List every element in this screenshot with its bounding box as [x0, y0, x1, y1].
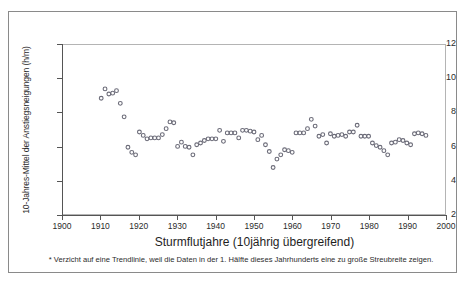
data-point: [264, 143, 268, 147]
data-point: [187, 145, 191, 149]
data-point: [122, 115, 126, 119]
data-point: [191, 153, 195, 157]
data-point: [363, 134, 367, 138]
y-tick-label-6: 6: [412, 142, 456, 151]
y-tick-4: [57, 181, 62, 182]
data-point: [222, 139, 226, 143]
data-point: [386, 153, 390, 157]
data-point: [237, 136, 241, 140]
y-tick-label-8: 8: [412, 107, 456, 116]
y-axis-line: [62, 44, 63, 216]
data-point: [141, 134, 145, 138]
data-point: [252, 130, 256, 134]
footnote-text: * Verzicht auf eine Trendlinie, weil die…: [23, 255, 459, 265]
x-tick-label-1980: 1980: [349, 221, 389, 231]
data-point: [126, 145, 130, 149]
x-tick-label-1920: 1920: [119, 221, 159, 231]
x-tick-label-1930: 1930: [157, 221, 197, 231]
x-tick-label-2000: 2000: [426, 221, 466, 231]
data-point: [256, 138, 260, 142]
data-point: [367, 134, 371, 138]
data-point: [397, 138, 401, 142]
data-point: [290, 150, 294, 154]
data-point: [248, 129, 252, 133]
data-point: [180, 140, 184, 144]
y-tick-label-12: 12: [412, 39, 456, 48]
x-tick-label-1990: 1990: [388, 221, 428, 231]
data-point: [267, 150, 271, 154]
data-point: [214, 137, 218, 141]
x-tick-label-1960: 1960: [272, 221, 312, 231]
y-tick-label-2: 2: [412, 210, 456, 219]
data-point: [348, 130, 352, 134]
data-point: [420, 132, 424, 136]
data-point: [306, 127, 310, 131]
data-point: [374, 144, 378, 148]
data-point: [279, 153, 283, 157]
data-point: [107, 92, 111, 96]
data-point: [393, 140, 397, 144]
data-point: [241, 128, 245, 132]
x-tick-1970: [331, 216, 332, 220]
x-tick-label-1970: 1970: [311, 221, 351, 231]
y-axis-title: 10-Jahres-Mittel der Anstiegsneigungen (…: [19, 44, 33, 216]
x-tick-1960: [292, 216, 293, 220]
y-tick-6: [57, 147, 62, 148]
data-point: [313, 124, 317, 128]
data-point: [145, 137, 149, 141]
data-point: [111, 91, 115, 95]
data-point: [244, 128, 248, 132]
data-point: [210, 137, 214, 141]
data-point: [294, 131, 298, 135]
x-tick-1950: [254, 216, 255, 220]
chart-figure-root: 24681012 1900191019201930194019501960197…: [0, 0, 466, 284]
data-point: [424, 134, 428, 138]
data-point: [325, 141, 329, 145]
data-point: [176, 145, 180, 149]
data-point: [286, 149, 290, 153]
data-point: [416, 131, 420, 135]
y-tick-label-10: 10: [412, 73, 456, 82]
data-point: [118, 101, 122, 105]
y-tick-label-4: 4: [412, 176, 456, 185]
x-tick-label-1910: 1910: [80, 221, 120, 231]
x-tick-label-1940: 1940: [196, 221, 236, 231]
data-point: [260, 134, 264, 138]
y-tick-12: [57, 44, 62, 45]
data-point: [206, 137, 210, 141]
y-tick-8: [57, 112, 62, 113]
data-point: [130, 150, 134, 154]
data-point: [199, 141, 203, 145]
data-point: [164, 127, 168, 131]
data-point: [160, 133, 164, 137]
data-point: [103, 87, 107, 91]
data-point: [413, 132, 417, 136]
data-point: [271, 166, 275, 170]
data-point: [225, 131, 229, 135]
data-point: [149, 136, 153, 140]
data-point: [157, 136, 161, 140]
data-point: [275, 157, 279, 161]
data-point: [401, 139, 405, 143]
data-point: [309, 117, 313, 121]
x-tick-1940: [216, 216, 217, 220]
data-point: [340, 133, 344, 137]
data-point: [332, 134, 336, 138]
data-point: [168, 120, 172, 124]
x-tick-1980: [369, 216, 370, 220]
data-point: [382, 149, 386, 153]
data-point: [115, 89, 119, 93]
x-tick-1920: [139, 216, 140, 220]
data-point: [138, 130, 142, 134]
data-point: [355, 123, 359, 127]
data-point: [153, 136, 157, 140]
data-point: [218, 128, 222, 132]
x-tick-1900: [62, 216, 63, 220]
data-point: [321, 133, 325, 137]
data-point: [378, 145, 382, 149]
data-point: [202, 139, 206, 143]
x-tick-1910: [100, 216, 101, 220]
x-tick-1990: [408, 216, 409, 220]
y-tick-10: [57, 78, 62, 79]
data-point: [317, 134, 321, 138]
